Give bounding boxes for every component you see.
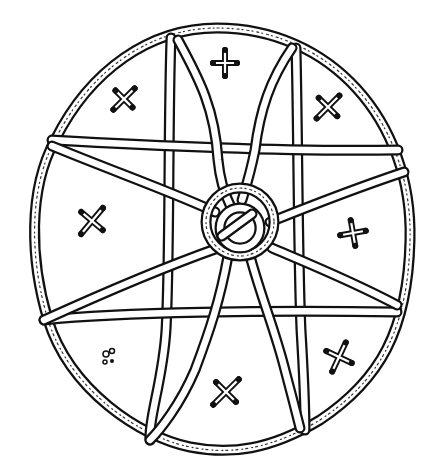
cross-icon (316, 333, 363, 382)
cross-icon (303, 82, 352, 131)
cross-icon (66, 195, 118, 247)
cross-icon (101, 76, 148, 123)
star-wheel-illustration (0, 0, 434, 475)
cross-icon (334, 214, 371, 251)
cross-icon (210, 47, 240, 79)
cross-icon (199, 365, 253, 419)
small-mark-icon (103, 349, 115, 365)
